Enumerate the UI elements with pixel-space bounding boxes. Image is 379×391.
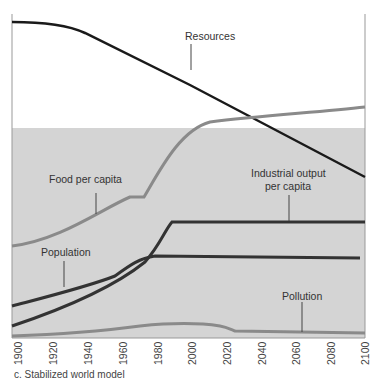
chart: Resources Food per capita Industrial out… bbox=[0, 0, 379, 391]
svg-text:1940: 1940 bbox=[82, 341, 94, 365]
label-resources: Resources bbox=[185, 30, 235, 42]
label-industrial-2: per capita bbox=[265, 180, 311, 192]
label-pollution: Pollution bbox=[282, 290, 322, 302]
svg-text:2100: 2100 bbox=[359, 341, 371, 365]
svg-text:1900: 1900 bbox=[12, 341, 24, 365]
svg-text:2000: 2000 bbox=[186, 341, 198, 365]
svg-text:2080: 2080 bbox=[325, 341, 337, 365]
svg-text:2020: 2020 bbox=[221, 341, 233, 365]
x-tick-labels: 1900 1920 1940 1960 1980 2000 2020 2040 … bbox=[12, 341, 371, 365]
svg-text:2040: 2040 bbox=[256, 341, 268, 365]
svg-text:1960: 1960 bbox=[117, 341, 129, 365]
svg-text:1920: 1920 bbox=[47, 341, 59, 365]
svg-text:2060: 2060 bbox=[290, 341, 302, 365]
label-population: Population bbox=[41, 246, 91, 258]
caption: c. Stabilized world model bbox=[14, 369, 125, 380]
svg-text:1980: 1980 bbox=[152, 341, 164, 365]
label-industrial-1: Industrial output bbox=[251, 167, 326, 179]
label-food: Food per capita bbox=[49, 173, 122, 185]
